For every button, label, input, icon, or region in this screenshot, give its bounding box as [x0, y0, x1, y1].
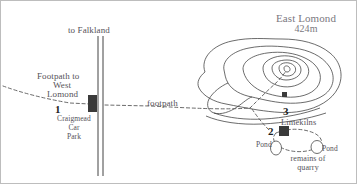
pond-right-label: Pond [322, 145, 338, 153]
marker-box-carpark [88, 95, 97, 112]
marker-number-2: 2 [268, 126, 274, 137]
marker-number-3: 3 [283, 106, 289, 117]
footpath-label: footpath [147, 99, 178, 108]
carpark-label-line3: Park [49, 133, 99, 141]
to-falkland-label: to Falkland [68, 26, 110, 35]
peak-altitude-label: 424m [258, 24, 354, 35]
marker-box-summit [282, 92, 287, 97]
map-canvas: East Lomond 424m to Falkland Footpath to… [0, 0, 357, 184]
carpark-label-line1: Craigmead [49, 115, 99, 123]
footpath-west-label-line3: Lomond [47, 90, 78, 99]
marker-number-1: 1 [55, 104, 61, 115]
marker-box-limekilns [279, 126, 289, 136]
pond-left-shape [271, 141, 282, 155]
limekilns-label: Limekilns [281, 118, 316, 127]
quarry-label-line2: quarry [277, 164, 339, 172]
pond-left-label: Pond [256, 141, 272, 149]
carpark-label-line2: Car [49, 124, 99, 132]
